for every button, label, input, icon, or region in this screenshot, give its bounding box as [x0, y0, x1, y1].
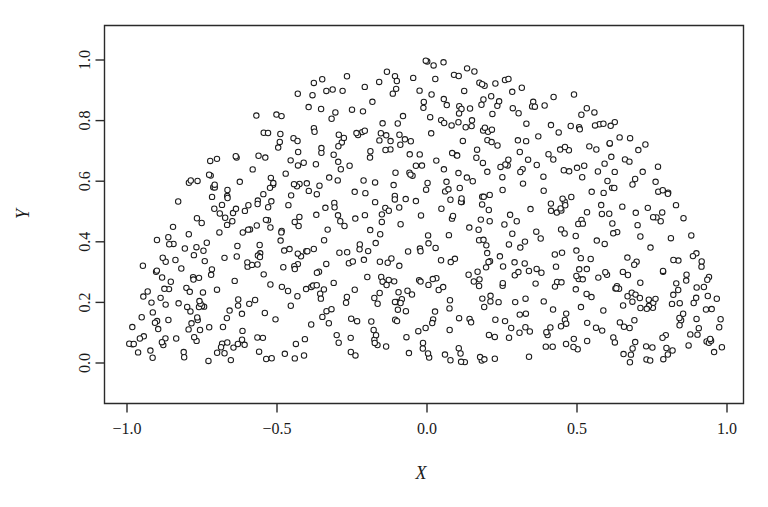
scatter-point	[295, 251, 300, 256]
scatter-point	[160, 255, 165, 260]
scatter-point	[141, 294, 146, 299]
scatter-point	[212, 182, 217, 187]
scatter-point	[628, 352, 633, 357]
scatter-point	[599, 202, 604, 207]
scatter-point	[319, 145, 324, 150]
scatter-point	[174, 336, 179, 341]
scatter-point	[317, 183, 322, 188]
scatter-point	[532, 104, 537, 109]
scatter-point	[279, 284, 284, 289]
scatter-point	[627, 325, 632, 330]
scatter-point	[285, 288, 290, 293]
scatter-point	[397, 205, 402, 210]
scatter-point	[207, 325, 212, 330]
scatter-point	[601, 308, 606, 313]
scatter-point	[665, 352, 670, 357]
scatter-point	[425, 351, 430, 356]
scatter-point	[201, 248, 206, 253]
scatter-point	[482, 125, 487, 130]
scatter-point	[413, 163, 418, 168]
scatter-point	[472, 69, 477, 74]
scatter-point	[625, 255, 630, 260]
scatter-point	[550, 344, 555, 349]
plot-canvas: −1.0−0.50.00.51.0 0.00.20.40.60.81.0 X Y	[0, 0, 768, 507]
scatter-point	[582, 163, 587, 168]
scatter-point	[350, 259, 355, 264]
scatter-point	[377, 138, 382, 143]
scatter-point	[413, 198, 418, 203]
scatter-point	[168, 279, 173, 284]
scatter-point	[602, 161, 607, 166]
scatter-point	[217, 230, 222, 235]
scatter-point	[228, 357, 233, 362]
scatter-point	[434, 158, 439, 163]
scatter-point	[389, 256, 394, 261]
scatter-point	[441, 167, 446, 172]
scatter-point	[336, 132, 341, 137]
scatter-point	[474, 155, 479, 160]
scatter-point	[492, 356, 497, 361]
scatter-point	[617, 135, 622, 140]
scatter-point	[488, 94, 493, 99]
scatter-point	[467, 106, 472, 111]
scatter-point	[640, 169, 645, 174]
scatter-point	[235, 303, 240, 308]
scatter-point	[321, 238, 326, 243]
scatter-point	[681, 215, 686, 220]
scatter-point	[348, 335, 353, 340]
scatter-point	[563, 341, 568, 346]
scatter-point	[476, 283, 481, 288]
scatter-point	[686, 343, 691, 348]
scatter-point	[571, 336, 576, 341]
scatter-point	[204, 240, 209, 245]
scatter-point	[490, 111, 495, 116]
scatter-point	[394, 78, 399, 83]
scatter-point	[357, 247, 362, 252]
scatter-point	[145, 289, 150, 294]
scatter-point	[166, 235, 171, 240]
scatter-point	[448, 197, 453, 202]
scatter-point	[653, 296, 658, 301]
scatter-point	[506, 157, 511, 162]
scatter-point	[268, 225, 273, 230]
scatter-point	[131, 341, 136, 346]
scatter-point	[154, 268, 159, 273]
scatter-plot-figure: −1.0−0.50.00.51.0 0.00.20.40.60.81.0 X Y	[0, 0, 768, 507]
scatter-point	[670, 348, 675, 353]
scatter-point	[188, 178, 193, 183]
scatter-point	[338, 219, 343, 224]
scatter-point	[584, 106, 589, 111]
scatter-point	[333, 110, 338, 115]
scatter-point	[543, 344, 548, 349]
scatter-point	[719, 345, 724, 350]
scatter-point	[621, 351, 626, 356]
scatter-point	[517, 330, 522, 335]
scatter-point	[523, 138, 528, 143]
scatter-point	[384, 69, 389, 74]
scatter-point	[419, 163, 424, 168]
scatter-point	[446, 232, 451, 237]
scatter-point	[469, 123, 474, 128]
scatter-point	[467, 225, 472, 230]
scatter-point	[269, 356, 274, 361]
scatter-point	[344, 74, 349, 79]
scatter-point	[336, 144, 341, 149]
scatter-point	[533, 281, 538, 286]
scatter-point	[470, 179, 475, 184]
scatter-point	[620, 303, 625, 308]
scatter-point	[660, 335, 665, 340]
scatter-point	[605, 178, 610, 183]
scatter-point	[595, 169, 600, 174]
scatter-point	[321, 287, 326, 292]
scatter-point	[398, 142, 403, 147]
scatter-point	[417, 88, 422, 93]
x-tick-labels: −1.0−0.50.00.51.0	[112, 420, 737, 437]
scatter-point	[268, 282, 273, 287]
scatter-point	[650, 345, 655, 350]
scatter-point	[312, 129, 317, 134]
scatter-point	[460, 138, 465, 143]
scatter-point	[301, 160, 306, 165]
scatter-point	[295, 149, 300, 154]
scatter-point	[222, 351, 227, 356]
scatter-point	[493, 81, 498, 86]
